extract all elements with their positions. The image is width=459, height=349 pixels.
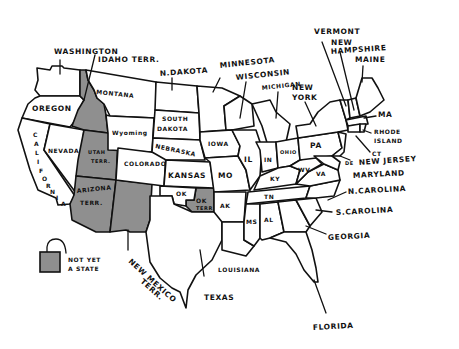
label-arizona-2: TERR.: [80, 199, 103, 206]
label-minnesota: MINNESOTA: [219, 55, 275, 70]
state-florida[interactable]: [270, 232, 318, 282]
legend: NOT YET A STATE: [40, 239, 101, 272]
svg-text:I: I: [37, 158, 40, 165]
state-connecticut[interactable]: [348, 124, 360, 132]
state-washington[interactable]: [35, 66, 80, 96]
label-utah-2: TERR.: [91, 158, 111, 164]
label-il: IL: [244, 155, 253, 164]
label-ky: KY: [270, 175, 280, 182]
label-ok: OK: [176, 190, 187, 197]
label-new-jersey: NEW JERSEY: [359, 154, 417, 167]
label-ohio: OHIO: [280, 149, 297, 155]
label-pa: PA: [310, 141, 322, 150]
label-n-dakota: N.DAKOTA: [160, 66, 209, 78]
legend-swatch: [40, 252, 60, 272]
label-de: DE: [345, 160, 354, 166]
label-tn: TN: [264, 193, 274, 200]
label-ms: MS: [246, 218, 258, 225]
label-in: IN: [264, 156, 272, 163]
svg-text:I: I: [56, 194, 59, 201]
svg-text:C: C: [33, 131, 38, 138]
svg-text:L: L: [35, 149, 39, 156]
label-rhode-island-1: RHODE: [374, 128, 401, 135]
label-al: AL: [264, 216, 274, 223]
label-new-york-1: NEW: [292, 83, 314, 92]
label-va: VA: [316, 170, 326, 177]
us-map: NOT YET A STATE WASHINGTON IDAHO TERR. O…: [0, 0, 459, 349]
label-maryland: MARYLAND: [353, 168, 405, 180]
label-idaho: IDAHO TERR.: [98, 55, 159, 64]
label-s-dakota-1: SOUTH: [162, 115, 188, 122]
svg-text:O: O: [42, 175, 48, 182]
svg-text:F: F: [39, 167, 44, 174]
label-utah-1: UTAH: [88, 149, 106, 155]
label-georgia: GEORGIA: [328, 231, 371, 242]
state-mississippi[interactable]: [244, 204, 260, 246]
label-texas: TEXAS: [204, 293, 234, 302]
label-ok-terr-1: OK: [196, 197, 207, 204]
label-ak: AK: [220, 202, 231, 209]
label-florida: FLORIDA: [313, 321, 354, 332]
label-wv: WV: [298, 166, 310, 173]
legend-line2: A STATE: [68, 265, 99, 272]
label-ma: MA: [378, 110, 392, 119]
label-wisconsin: WISCONSIN: [235, 67, 290, 82]
label-iowa: IOWA: [208, 140, 229, 147]
label-kansas: KANSAS: [168, 171, 206, 180]
label-vermont: VERMONT: [314, 27, 360, 36]
label-louisiana: LOUISIANA: [218, 266, 260, 273]
svg-text:N: N: [50, 188, 56, 195]
label-wyoming: Wyoming: [112, 129, 148, 137]
label-s-dakota-2: DAKOTA: [157, 125, 188, 132]
territory-new-mexico[interactable]: [110, 180, 152, 232]
label-nevada: NEVADA: [48, 147, 79, 154]
label-rhode-island-2: ISLAND: [374, 137, 403, 144]
label-mo: MO: [218, 171, 233, 180]
label-oregon: OREGON: [32, 104, 72, 113]
label-s-carolina: S.CAROLINA: [336, 205, 394, 217]
label-maine: MAINE: [355, 55, 385, 64]
legend-line1: NOT YET: [68, 256, 101, 263]
label-colorado: COLORADO: [124, 160, 166, 167]
svg-text:A: A: [34, 140, 39, 147]
svg-text:A: A: [61, 200, 66, 207]
state-n-dakota[interactable]: [155, 82, 199, 113]
label-new-york-2: YORK: [291, 93, 318, 102]
label-n-carolina: N.CAROLINA: [348, 184, 407, 196]
label-ok-terr-2: TERR: [196, 205, 213, 211]
